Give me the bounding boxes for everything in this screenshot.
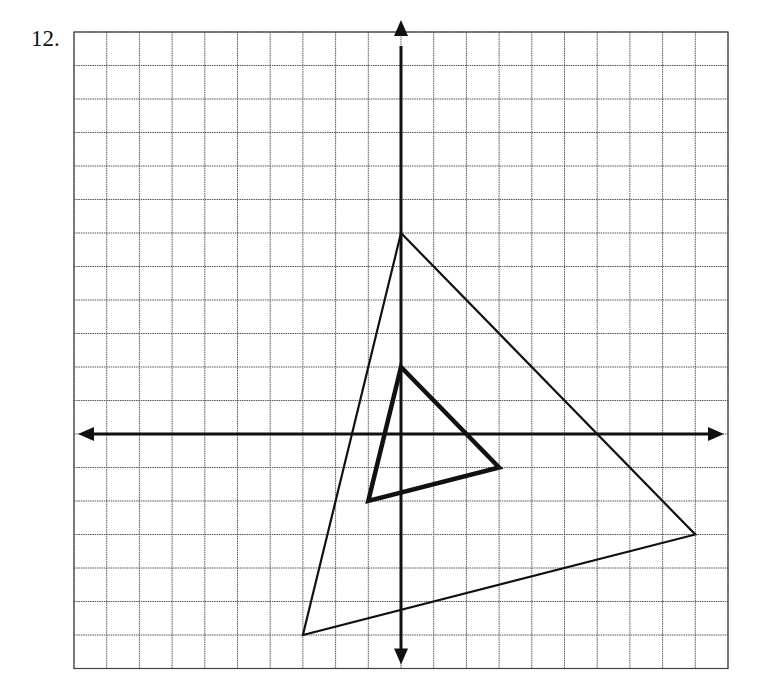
y-axis-up-arrow-icon <box>394 20 408 36</box>
x-axis-left-arrow-icon <box>78 427 94 441</box>
x-axis-right-arrow-icon <box>708 427 724 441</box>
coordinate-graph <box>0 0 757 699</box>
y-axis-down-arrow-icon <box>394 649 408 665</box>
